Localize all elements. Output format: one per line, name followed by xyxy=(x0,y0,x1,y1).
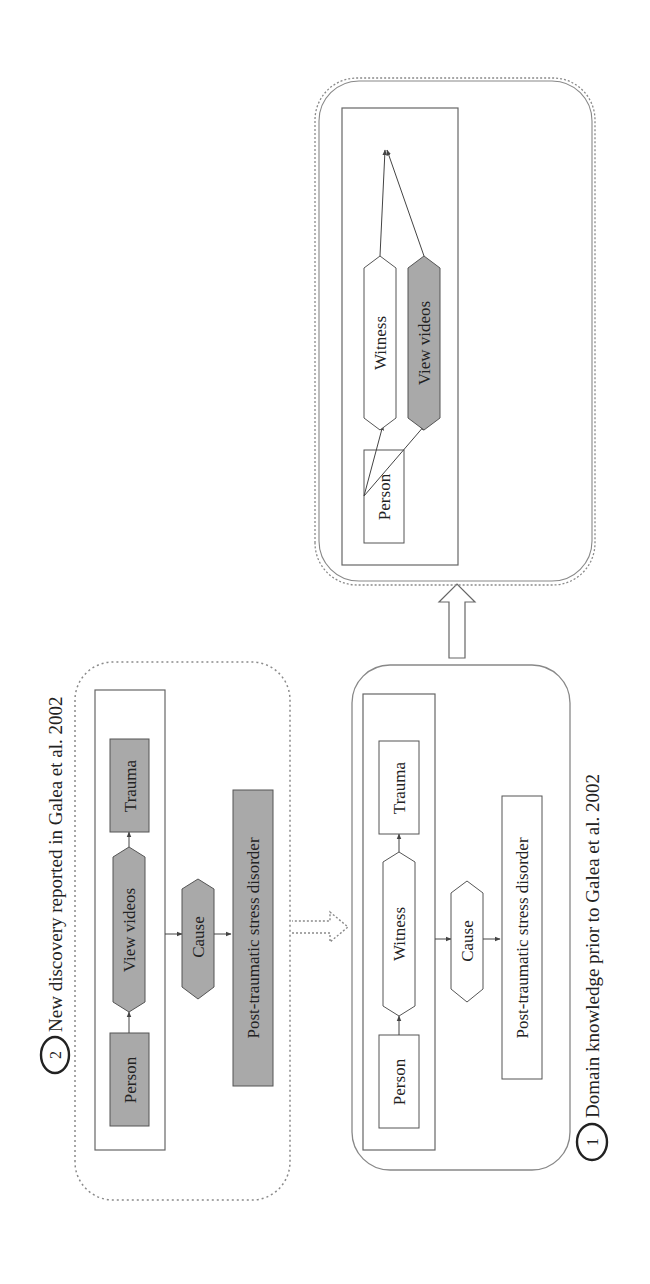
figure-canvas: Person View videos Trauma Cause Post-tra… xyxy=(0,0,650,1284)
arrow-prior-to-updated xyxy=(439,584,475,658)
panel-prior-knowledge: Person Witness Trauma Cause Post-traumat… xyxy=(352,665,607,1170)
node-trauma-label: Trauma xyxy=(121,759,140,812)
node-person-label: Person xyxy=(121,1056,140,1103)
node-witness-label: Witness xyxy=(371,316,390,370)
node-cause-label: Cause xyxy=(458,920,477,962)
svg-text:1: 1 xyxy=(584,1138,601,1146)
node-person-label: Person xyxy=(390,1058,409,1105)
panel-2-caption: New discovery reported in Galea et al. 2… xyxy=(45,696,66,1032)
node-view-videos-label: View videos xyxy=(415,301,434,385)
panel-1-caption: Domain knowledge prior to Galea et al. 2… xyxy=(582,774,603,1118)
panel-3-frame xyxy=(319,81,592,581)
panel-2-number-badge: 2 xyxy=(41,1037,69,1073)
node-trauma-label: Trauma xyxy=(390,761,409,814)
node-cause-label: Cause xyxy=(189,916,208,958)
node-ptsd-label: Post-traumatic stress disorder xyxy=(513,837,532,1038)
svg-text:2: 2 xyxy=(47,1051,64,1059)
panel-1-number-badge: 1 xyxy=(577,1124,607,1160)
node-view-videos-label: View videos xyxy=(120,888,139,972)
panel-new-discovery: Person View videos Trauma Cause Post-tra… xyxy=(41,662,290,1200)
panel-updated-knowledge: Person Witness View videos xyxy=(315,78,595,585)
panel-3-dotted-frame xyxy=(315,78,595,585)
node-ptsd-label: Post-traumatic stress disorder xyxy=(244,837,263,1038)
dotted-arrow-discovery-to-prior xyxy=(292,912,348,942)
node-witness-label: Witness xyxy=(390,907,409,961)
